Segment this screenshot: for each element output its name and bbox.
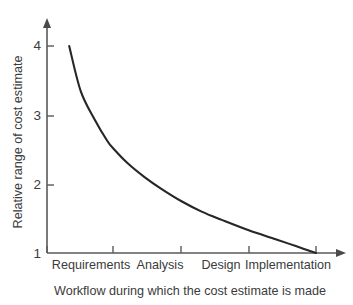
x-category-label-implementation: Implementation bbox=[245, 258, 331, 272]
y-tick-label-4: 4 bbox=[33, 38, 41, 53]
chart-figure: 4 3 2 1 Requirements Analysis Design Imp… bbox=[0, 0, 353, 305]
y-tick-label-3: 3 bbox=[33, 108, 41, 123]
x-axis-title: Workflow during which the cost estimate … bbox=[54, 284, 326, 298]
y-axis-title: Relative range of cost estimate bbox=[11, 56, 25, 229]
chart-canvas: 4 3 2 1 Requirements Analysis Design Imp… bbox=[0, 0, 353, 305]
y-tick-label-1: 1 bbox=[33, 246, 41, 261]
x-category-label-design: Design bbox=[201, 258, 240, 272]
x-category-label-requirements: Requirements bbox=[52, 258, 130, 272]
x-category-label-analysis: Analysis bbox=[137, 258, 184, 272]
y-tick-label-2: 2 bbox=[33, 177, 41, 192]
